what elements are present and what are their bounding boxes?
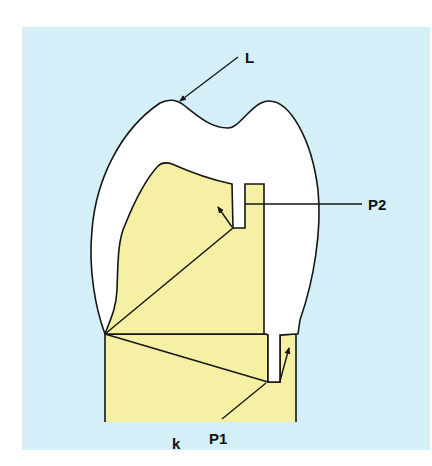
label-P1: P1	[209, 430, 227, 447]
leader-line-L	[180, 57, 238, 101]
tooth-diagram: L P2 P1 k	[0, 0, 432, 466]
label-L: L	[245, 49, 254, 66]
label-P2: P2	[368, 196, 386, 213]
label-k: k	[172, 435, 181, 452]
